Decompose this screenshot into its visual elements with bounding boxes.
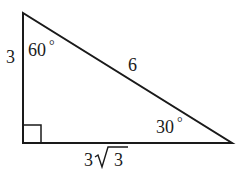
degree-symbol: °: [49, 38, 55, 53]
bottom-right-angle-label: 30°: [156, 115, 183, 137]
right-angle-marker: [23, 125, 41, 143]
bottom-side-coefficient: 3: [84, 150, 93, 170]
bottom-right-angle-value: 30: [156, 117, 174, 137]
triangle-outline: [23, 13, 232, 143]
bottom-side-radicand: 3: [114, 150, 123, 170]
bottom-side-label: 3 3: [84, 147, 128, 170]
triangle-diagram: 3 60° 6 30° 3 3: [0, 0, 242, 175]
hypotenuse-label: 6: [128, 55, 137, 75]
top-angle-label: 60°: [28, 38, 55, 60]
left-side-label: 3: [6, 47, 15, 67]
degree-symbol: °: [177, 115, 183, 130]
top-angle-value: 60: [28, 40, 46, 60]
radical-sign-icon: [95, 147, 128, 167]
